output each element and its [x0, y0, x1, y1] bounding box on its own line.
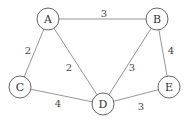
edge-a-d: [48, 19, 103, 104]
nodes-layer: A B C D E: [9, 8, 180, 115]
node-d-label: D: [99, 98, 108, 111]
weight-d-e: 3: [138, 101, 144, 112]
node-c-label: C: [16, 81, 24, 94]
weight-a-c: 2: [25, 45, 31, 56]
node-e-label: E: [165, 81, 173, 94]
weight-b-d: 3: [129, 62, 135, 73]
edge-c-d: [20, 87, 103, 104]
node-e: E: [158, 76, 180, 98]
weight-a-b: 3: [101, 8, 107, 19]
edges-layer: [20, 19, 169, 104]
node-a: A: [37, 8, 59, 30]
graph-diagram: 3 2 2 3 4 4 3 A B C D E: [0, 0, 185, 120]
weight-a-d: 2: [66, 62, 72, 73]
weight-c-d: 4: [55, 98, 61, 109]
node-a-label: A: [43, 13, 53, 26]
node-b: B: [146, 8, 168, 30]
node-d: D: [92, 93, 114, 115]
weight-b-e: 4: [168, 45, 174, 56]
node-b-label: B: [153, 13, 161, 26]
node-c: C: [9, 76, 31, 98]
